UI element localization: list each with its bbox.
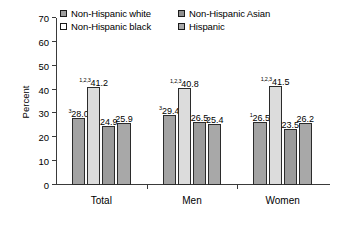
y-axis-tick-label: 50: [38, 60, 49, 71]
bar: 23.5: [284, 129, 297, 185]
y-axis-tick-label: 30: [38, 108, 49, 119]
legend-swatch-icon: [60, 10, 67, 17]
y-axis-tick-label: 60: [38, 36, 49, 47]
footnote-marker: 3: [68, 108, 71, 114]
bar: 25.4: [208, 124, 221, 185]
bar-value-label: 328.0: [68, 106, 88, 119]
bar-group: 329.41,2,340.826.525.4Men: [147, 18, 238, 185]
bar-value-label: 126.5: [250, 110, 270, 123]
bar: 1,2,341.5: [269, 86, 282, 185]
x-axis-category-label: Total: [91, 195, 112, 206]
bar: 1,2,340.8: [178, 88, 191, 185]
bar: 25.9: [117, 123, 130, 185]
y-axis-tick-label: 40: [38, 84, 49, 95]
bar: 26.2: [299, 123, 312, 186]
plot-area: Percent 010203040506070 328.01,2,341.224…: [56, 18, 328, 185]
y-axis-tick-label: 20: [38, 132, 49, 143]
bar-chart: Non-Hispanic whiteNon-Hispanic AsianNon-…: [0, 0, 338, 247]
y-axis-title: Percent: [20, 85, 31, 118]
bar: 329.4: [163, 115, 176, 185]
bar: 328.0: [72, 118, 85, 185]
bar-value-label: 25.9: [115, 114, 133, 124]
x-axis-tick: [237, 185, 238, 189]
bar-value-label: 1,2,341.2: [79, 75, 108, 88]
bar: 1,2,341.2: [87, 87, 100, 185]
y-axis-tick-label: 70: [38, 13, 49, 24]
footnote-marker: 1,2,3: [170, 78, 181, 84]
bar: 26.5: [193, 122, 206, 185]
bar: 126.5: [253, 122, 266, 185]
bar-value-label: 1,2,340.8: [170, 76, 199, 89]
bar-value-label: 1,2,341.5: [261, 74, 290, 87]
footnote-marker: 1: [250, 112, 253, 118]
bar-group: 328.01,2,341.224.925.9Total: [56, 18, 147, 185]
bar-value-label: 25.4: [206, 115, 224, 125]
y-axis-tick-label: 10: [38, 156, 49, 167]
x-axis-category-label: Women: [266, 195, 300, 206]
bar-value-label: 329.4: [159, 103, 179, 116]
y-axis-tick-label: 0: [44, 180, 49, 191]
bar: 24.9: [102, 126, 115, 185]
bar-value-label: 26.2: [297, 114, 315, 124]
footnote-marker: 1,2,3: [79, 77, 90, 83]
footnote-marker: 1,2,3: [261, 76, 272, 82]
footnote-marker: 3: [159, 105, 162, 111]
legend-swatch-icon: [178, 10, 185, 17]
x-axis-tick: [147, 185, 148, 189]
bar-group: 126.51,2,341.523.526.2Women: [237, 18, 328, 185]
x-axis-category-label: Men: [182, 195, 201, 206]
